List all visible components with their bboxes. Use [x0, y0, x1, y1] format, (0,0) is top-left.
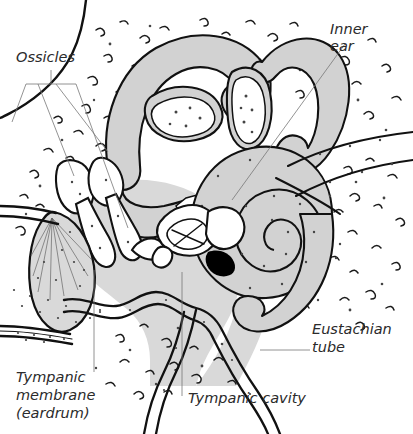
label-inner-ear: Inner ear [330, 21, 372, 54]
ear-diagram-svg: Ossicles Inner ear Eustachian tube Tympa… [0, 0, 413, 434]
label-tympanic-membrane: Tympanic membrane (eardrum) [16, 369, 100, 421]
label-tympanic-cavity: Tympanic cavity [188, 390, 306, 406]
label-eustachian-tube: Eustachian tube [312, 321, 396, 355]
ear-anatomy-figure: Ossicles Inner ear Eustachian tube Tympa… [0, 0, 413, 434]
ampulla-posterior [227, 68, 272, 149]
label-ossicles: Ossicles [16, 49, 75, 65]
ampulla-lateral [145, 87, 223, 141]
